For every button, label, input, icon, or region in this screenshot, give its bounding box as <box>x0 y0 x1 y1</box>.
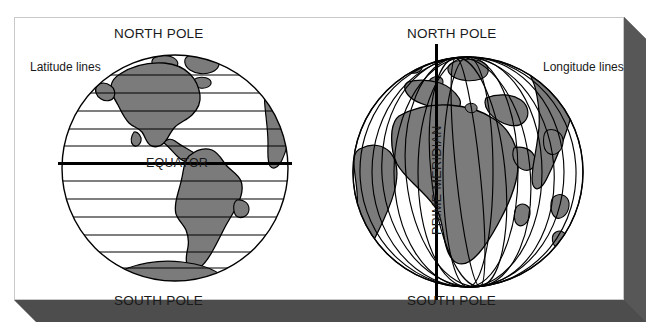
equator-label: EQUATOR <box>146 157 208 170</box>
diagram-canvas <box>0 0 660 330</box>
right-south-pole-label: SOUTH POLE <box>407 294 496 308</box>
globe-diagram-figure: NORTH POLE Latitude lines EQUATOR SOUTH … <box>0 0 660 330</box>
prime-meridian-label: PRIME MERIDIAN <box>431 125 444 235</box>
right-north-pole-label: NORTH POLE <box>407 27 497 41</box>
longitude-lines-label: Longitude lines <box>543 61 624 73</box>
left-north-pole-label: NORTH POLE <box>114 27 204 41</box>
latitude-lines-label: Latitude lines <box>30 61 101 73</box>
left-south-pole-label: SOUTH POLE <box>114 294 203 308</box>
